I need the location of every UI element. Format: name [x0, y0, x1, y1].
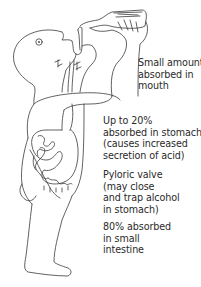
annotation-stomach: Up to 20% absorbed in stomach (causes in… [103, 115, 201, 161]
throat-outline [72, 27, 82, 54]
annotation-mouth-line-3: mouth [138, 80, 201, 92]
annotation-stomach-line-1: Up to 20% [103, 115, 201, 127]
stomach-outline [32, 129, 78, 184]
annotation-stomach-line-3: (causes increased [103, 138, 201, 150]
annotation-intestine-line-3: intestine [103, 244, 171, 256]
annotation-intestine-line-2: in small [103, 233, 171, 245]
forehead-outline [62, 32, 72, 41]
annotation-pyloric-valve: Pyloric valve (may close and trap alcoho… [103, 169, 180, 215]
annotation-mouth-line-1: Small amounts [138, 57, 201, 69]
annotation-mouth-line-2: absorbed in [138, 69, 201, 81]
annotation-pyloric-line-4: in stomach) [103, 204, 180, 216]
annotation-stomach-line-4: secretion of acid) [103, 150, 201, 162]
annotation-mouth: Small amounts absorbed in mouth [138, 57, 201, 92]
annotation-pyloric-line-1: Pyloric valve [103, 169, 180, 181]
head-outline [14, 30, 63, 138]
hand-outline [118, 20, 138, 32]
torso-outline [34, 93, 120, 104]
annotation-pyloric-line-2: (may close [103, 181, 180, 193]
annotation-pyloric-line-3: and trap alcohol [103, 192, 180, 204]
annotation-intestine-line-1: 80% absorbed [103, 221, 171, 233]
annotation-stomach-line-2: absorbed in stomach [103, 127, 201, 139]
small-intestine [37, 135, 54, 156]
leg-outline [25, 196, 72, 276]
annotation-small-intestine: 80% absorbed in small intestine [103, 221, 171, 256]
